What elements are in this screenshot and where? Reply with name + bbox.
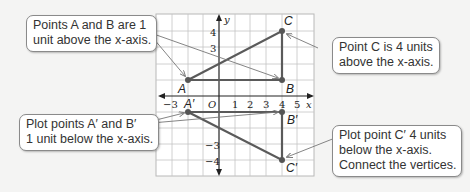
callout-text-line: below the x-axis.	[339, 143, 456, 158]
y-tick-neg4: −4	[205, 156, 220, 167]
point-c-label: C	[284, 14, 293, 28]
callout-point-c: Point C is 4 units above the x-axis.	[332, 37, 440, 74]
callout-text-line: Plot point C′ 4 units	[339, 128, 456, 143]
x-tick-neg3: −3	[163, 99, 178, 110]
y-tick-4: 4	[210, 27, 216, 38]
x-tick-2: 2	[247, 99, 253, 110]
callout-text-line: unit above the x-axis.	[33, 33, 151, 48]
x-tick-5: 5	[294, 99, 300, 110]
callout-text-line: Point C is 4 units	[339, 40, 434, 55]
callout-text-line: Plot points A′ and B′	[26, 117, 153, 132]
x-tick-1: 1	[232, 99, 238, 110]
x-tick-3: 3	[263, 99, 269, 110]
point-b-prime-label: B′	[287, 113, 298, 127]
point-a-label: A	[177, 82, 186, 96]
point-b-label: B	[286, 82, 294, 96]
callout-points-a-b-prime: Plot points A′ and B′ 1 unit below the x…	[19, 114, 159, 151]
point-c-prime-label: C′	[286, 161, 298, 175]
point-a-prime-label: A′	[183, 97, 195, 111]
callout-text-line: 1 unit below the x-axis.	[26, 132, 153, 147]
x-axis-label: x	[306, 99, 312, 110]
y-tick-neg3: −3	[205, 140, 220, 151]
callout-text-line: above the x-axis.	[339, 55, 434, 70]
callout-point-c-prime: Plot point C′ 4 units below the x-axis. …	[332, 125, 462, 177]
callout-points-a-b: Points A and B are 1 unit above the x-ax…	[26, 15, 157, 52]
callout-text-line: Points A and B are 1	[33, 18, 151, 33]
x-tick-4: 4	[279, 99, 285, 110]
y-tick-3: 3	[210, 43, 216, 54]
y-axis-label: y	[223, 14, 230, 25]
origin-label: O	[208, 99, 216, 110]
callout-text-line: Connect the vertices.	[339, 158, 456, 173]
